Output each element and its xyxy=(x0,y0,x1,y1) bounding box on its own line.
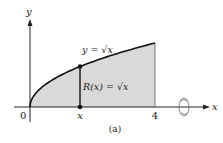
x-point-label: x xyxy=(77,110,83,121)
curve-point xyxy=(78,64,83,69)
axis-point xyxy=(78,105,83,110)
y-axis-arrow-icon xyxy=(28,19,33,26)
x-axis-label: x xyxy=(212,101,218,112)
y-axis-label: y xyxy=(25,6,32,17)
origin-label: 0 xyxy=(20,110,26,121)
solid-of-revolution-diagram: y x 0 x 4 y = √x R(x) = √x (a) xyxy=(0,0,223,143)
diagram-canvas: y x 0 x 4 y = √x R(x) = √x (a) xyxy=(0,0,223,143)
caption: (a) xyxy=(109,124,121,134)
radius-label: R(x) = √x xyxy=(82,81,129,92)
x-axis-arrow-icon xyxy=(203,105,210,110)
end-label: 4 xyxy=(152,110,158,121)
curve-label: y = √x xyxy=(81,44,113,55)
